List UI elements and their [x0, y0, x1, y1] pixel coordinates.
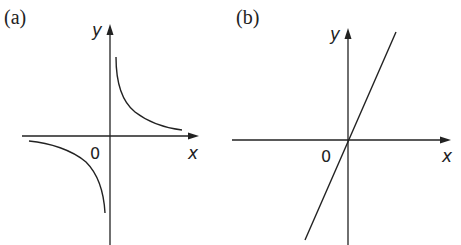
panel-b-line	[305, 32, 396, 240]
panel-a: (a) y 0 x	[4, 6, 199, 245]
panel-a-origin-label: 0	[90, 144, 100, 163]
panel-a-y-arrow-icon	[107, 24, 114, 35]
panel-a-x-arrow-icon	[188, 133, 199, 140]
panel-b-y-label: y	[329, 24, 341, 44]
panel-b: (b) y 0 x	[232, 6, 453, 245]
panel-b-x-label: x	[441, 146, 453, 166]
panel-a-y-label: y	[91, 20, 103, 40]
panel-a-label: (a)	[4, 6, 26, 29]
panel-a-x-label: x	[187, 143, 199, 163]
panel-a-curve-upper	[116, 57, 182, 130]
panel-b-origin-label: 0	[321, 147, 331, 166]
panel-b-x-arrow-icon	[440, 137, 451, 144]
panel-b-y-arrow-icon	[345, 28, 352, 39]
panel-b-label: (b)	[236, 6, 259, 29]
figure: (a) y 0 x (b) y 0 x	[0, 0, 461, 245]
